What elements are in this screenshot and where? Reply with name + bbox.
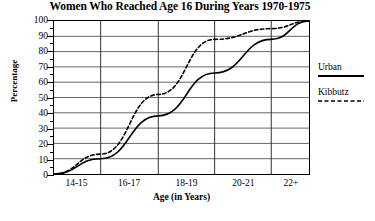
chart-legend: UrbanKibbutz: [318, 62, 375, 112]
plot-area: [53, 20, 310, 175]
series-line-urban: [54, 21, 309, 174]
data-series-lines: [54, 21, 309, 174]
y-tick-mark-major: [47, 175, 54, 176]
x-tick-label: 16-17: [118, 178, 140, 188]
series-line-kibbutz: [54, 21, 309, 174]
chart-figure: Women Who Reached Age 16 During Years 19…: [0, 0, 375, 221]
x-tick-label: 22+: [284, 178, 299, 188]
y-tick-label: 100: [34, 15, 48, 25]
legend-entry-kibbutz: Kibbutz: [318, 87, 375, 103]
x-tick-label: 18-19: [175, 178, 197, 188]
legend-entry-urban: Urban: [318, 62, 375, 78]
legend-label: Urban: [318, 62, 375, 73]
y-axis-tick-labels: 0102030405060708090100: [18, 20, 48, 175]
x-tick-label: 14-15: [65, 178, 87, 188]
x-axis-title: Age (in Years): [53, 192, 310, 202]
x-axis-tick-labels: 14-1516-1718-1920-2122+: [53, 178, 310, 192]
chart-title: Women Who Reached Age 16 During Years 19…: [0, 0, 360, 12]
legend-swatch-solid: [318, 74, 364, 78]
x-tick-label: 20-21: [232, 178, 254, 188]
legend-swatch-dashed: [318, 99, 364, 103]
legend-label: Kibbutz: [318, 87, 375, 98]
